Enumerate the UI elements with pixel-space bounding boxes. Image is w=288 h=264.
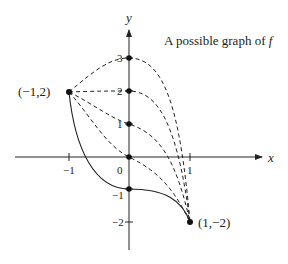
point-0-minus1 — [126, 186, 132, 192]
x-axis-label: x — [267, 150, 274, 165]
graph-title-function: f — [269, 33, 275, 48]
point-0-1 — [126, 121, 132, 127]
y-tick-label-3: 3 — [117, 52, 123, 64]
graph-canvas: y x −1 1 0 3 2 1 −1 −2 (−1,2) (1,−2) A p… — [0, 0, 288, 264]
y-tick-label-minus1: −1 — [112, 189, 124, 201]
y-axis-label: y — [124, 10, 132, 25]
point-start-label: (−1,2) — [18, 84, 50, 99]
point-end-label: (1,−2) — [198, 215, 230, 230]
origin-label: 0 — [117, 164, 123, 176]
graph-title: A possible graph of f — [164, 33, 275, 48]
x-tick-label-minus1: −1 — [63, 164, 75, 176]
y-tick-label-2: 2 — [117, 85, 123, 97]
point-end — [187, 219, 193, 225]
point-start — [66, 89, 72, 95]
point-0-3 — [126, 55, 132, 61]
x-tick-label-1: 1 — [187, 164, 193, 176]
point-0-2 — [126, 88, 132, 94]
y-tick-label-minus2: −2 — [112, 216, 124, 228]
point-0-0 — [126, 154, 132, 160]
y-tick-label-1: 1 — [117, 118, 123, 130]
graph-title-text: A possible graph of — [164, 33, 269, 48]
